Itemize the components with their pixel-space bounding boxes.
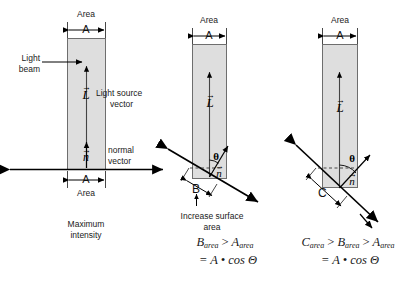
panel1-dim-letter-top: A (82, 23, 89, 35)
panel2-caption-line1: Increase surface (181, 211, 244, 222)
panel2-vector-L-label: → L (206, 93, 214, 109)
panel1-light-source-vector-line2: vector (110, 99, 133, 110)
panel3-area-top-label: Area (331, 15, 349, 26)
panel3-formula-C-sub: area (310, 241, 324, 250)
panel2-area-top-label: Area (200, 15, 218, 26)
panel2-formula-rel: > (222, 235, 229, 249)
panel1-normal-vector-line1: normal (108, 145, 134, 156)
panel1-vector-n-label: → n (82, 148, 90, 164)
panel1-light-beam-label-line2: beam (19, 64, 40, 75)
panel3-theta-label: θ (349, 152, 355, 164)
panel1-vector-L-label: → L (82, 85, 90, 101)
panel2-formula-A: A (232, 235, 240, 249)
panel1-caption-line1: Maximum (68, 219, 105, 230)
panel3-vector-n-label: → n (348, 172, 356, 188)
panel3-formula-A: A (373, 235, 381, 249)
panel2-vector-n-label: → n (215, 164, 223, 180)
panel3-formula-rel2: > (363, 235, 370, 249)
panel3-formula-line2: = A • cos Θ (321, 253, 379, 268)
panel2-dim-letter-B: B (192, 182, 200, 196)
panel2-formula-A-sub: area (239, 241, 253, 250)
panel2-dim-letter-top: A (205, 29, 212, 41)
panel3-vector-L-label: → L (336, 98, 344, 114)
panel3-dim-letter-top: A (336, 29, 343, 41)
panel2-formula-line2: = A • cos Θ (199, 253, 257, 268)
panel3-dim-letter-C: C (318, 186, 327, 200)
panel1-dim-letter-bottom: A (82, 173, 89, 185)
panel3-formula-pointer (360, 214, 372, 228)
panel3-formula-rel1: > (327, 235, 334, 249)
panel3-formula-B: B (337, 235, 345, 249)
panel1-area-bottom-label: Area (77, 188, 95, 199)
panel2-formula-line1: Barea > Aarea (196, 235, 253, 250)
panel3-formula-B-sub: area (345, 241, 359, 250)
panel2-formula-B-sub: area (204, 241, 218, 250)
panel3-formula-line1: Carea > Barea > Aarea (301, 235, 394, 250)
panel1-light-beam-label-line1: Light (22, 53, 40, 64)
panel1-area-top-label: Area (77, 9, 95, 20)
panel3-formula-A-sub: area (380, 241, 394, 250)
panel1-caption-line2: intensity (70, 230, 101, 241)
panel2-caption-line2: area (203, 222, 220, 233)
panel1-normal-vector-line2: vector (108, 156, 131, 167)
panel1-light-source-vector-line1: Light source (96, 88, 142, 99)
panel2-formula-B: B (196, 235, 204, 249)
